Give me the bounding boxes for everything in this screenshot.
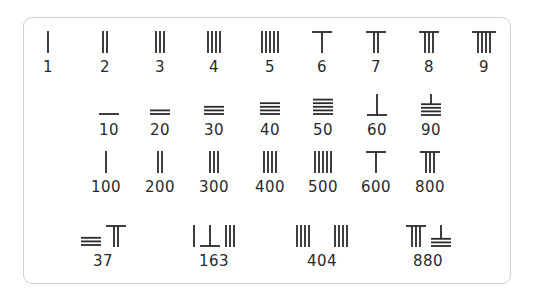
numeral-value-label: 7 [371,58,381,76]
rod-numeral-glyph [419,151,441,174]
numeral-value-label: 30 [204,121,224,139]
rod-numeral-glyph [46,31,50,54]
rod-numeral-glyph [208,151,220,174]
numeral-value-label: 8 [424,58,434,76]
rod-numeral-glyph [101,31,109,54]
rod-numeral-glyph [312,94,334,117]
rod-numeral-glyph [259,94,281,117]
numeral-cell: 3 [154,31,166,76]
numeral-value-label: 10 [99,121,119,139]
numeral-value-label: 60 [367,121,387,139]
numeral-cell: 6 [311,31,333,76]
numeral-cell: 30 [203,94,225,139]
rod-numeral-glyph [365,31,387,54]
numeral-value-label: 300 [199,178,229,196]
numeral-value-label: 600 [361,178,391,196]
numeral-value-label: 40 [260,121,280,139]
numeral-cell: 163 [192,225,236,270]
numeral-value-label: 800 [415,178,445,196]
numeral-value-label: 400 [255,178,285,196]
numeral-value-label: 3 [155,58,165,76]
numeral-cell: 9 [471,31,497,76]
numeral-cell: 200 [145,151,175,196]
numeral-cell: 600 [361,151,391,196]
rod-numeral-glyph [295,225,349,248]
numeral-cell: 60 [366,94,388,139]
numeral-value-label: 6 [317,58,327,76]
numeral-value-label: 20 [150,121,170,139]
rod-numeral-glyph [313,151,333,174]
numeral-value-label: 90 [421,121,441,139]
numeral-value-label: 1 [43,58,53,76]
rod-numeral-glyph [98,94,120,117]
numeral-value-label: 880 [413,252,443,270]
numeral-value-label: 37 [93,252,113,270]
numeral-value-label: 200 [145,178,175,196]
numeral-cell: 1 [43,31,53,76]
rod-numeral-glyph [471,31,497,54]
rod-numeral-glyph [365,151,387,174]
numeral-cell: 300 [199,151,229,196]
rod-numeral-glyph [203,94,225,117]
numeral-value-label: 500 [308,178,338,196]
numeral-cell: 37 [80,225,127,270]
numeral-cell: 8 [418,31,440,76]
numeral-cell: 7 [365,31,387,76]
numeral-cell: 500 [308,151,338,196]
numeral-value-label: 50 [313,121,333,139]
rod-numeral-glyph [262,151,278,174]
numeral-cell: 10 [98,94,120,139]
numeral-cell: 400 [255,151,285,196]
rod-numeral-glyph [80,225,127,248]
numeral-cell: 404 [295,225,349,270]
numeral-value-label: 9 [479,58,489,76]
numeral-cell: 50 [312,94,334,139]
numeral-cell: 880 [405,225,452,270]
rod-numeral-glyph [366,94,388,117]
numeral-value-label: 5 [265,58,275,76]
rod-numeral-glyph [192,225,236,248]
numeral-cell: 40 [259,94,281,139]
numeral-cell: 100 [91,151,121,196]
rod-numeral-glyph [104,151,108,174]
numeral-cell: 4 [206,31,222,76]
rod-numeral-glyph [311,31,333,54]
rod-numeral-glyph [418,31,440,54]
numeral-cell: 20 [149,94,171,139]
rod-numeral-glyph [156,151,164,174]
rod-numeral-glyph [149,94,171,117]
numeral-value-label: 100 [91,178,121,196]
rod-numeral-glyph [405,225,452,248]
numeral-cell: 800 [415,151,445,196]
numeral-value-label: 4 [209,58,219,76]
numeral-value-label: 404 [307,252,337,270]
rod-numeral-glyph [260,31,280,54]
numeral-value-label: 2 [100,58,110,76]
rod-numeral-glyph [154,31,166,54]
numeral-value-label: 163 [199,252,229,270]
rod-numeral-glyph [420,94,442,117]
numeral-cell: 2 [100,31,110,76]
rod-numeral-glyph [206,31,222,54]
numeral-cell: 90 [420,94,442,139]
numeral-cell: 5 [260,31,280,76]
